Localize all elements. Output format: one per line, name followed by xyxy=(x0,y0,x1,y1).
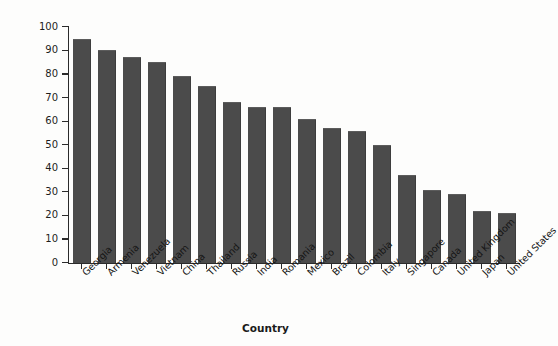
y-tick-label: 50 xyxy=(28,140,58,150)
y-tick-mark xyxy=(62,144,68,145)
y-tick-mark xyxy=(62,121,68,122)
y-tick-mark xyxy=(62,262,68,263)
y-tick-mark xyxy=(62,191,68,192)
bar xyxy=(198,86,217,263)
bar xyxy=(73,39,92,263)
y-tick-mark xyxy=(62,238,68,239)
y-tick-label: 20 xyxy=(28,210,58,220)
y-tick-mark xyxy=(62,168,68,169)
y-tick-mark xyxy=(62,73,68,74)
y-tick-mark xyxy=(62,50,68,51)
bar xyxy=(123,57,142,262)
y-tick-label: 10 xyxy=(28,234,58,244)
y-tick-label: 100 xyxy=(28,22,58,32)
y-tick-label: 40 xyxy=(28,163,58,173)
bar xyxy=(248,107,267,263)
y-tick-label: 70 xyxy=(28,93,58,103)
y-tick-mark xyxy=(62,215,68,216)
x-axis-title: Country xyxy=(0,322,531,334)
y-tick-label: 30 xyxy=(28,187,58,197)
bar xyxy=(323,128,342,262)
bar xyxy=(298,119,317,263)
bar xyxy=(223,102,242,262)
y-tick-mark xyxy=(62,97,68,98)
y-tick-label: 0 xyxy=(28,258,58,268)
y-tick-label: 80 xyxy=(28,69,58,79)
y-tick-label: 90 xyxy=(28,45,58,55)
y-tick-mark xyxy=(62,26,68,27)
bar xyxy=(348,131,367,263)
bar xyxy=(98,50,117,262)
y-tick-label: 60 xyxy=(28,116,58,126)
bar xyxy=(173,76,192,262)
bar xyxy=(398,175,417,262)
bar xyxy=(273,107,292,263)
y-axis-line xyxy=(68,26,69,264)
bar xyxy=(148,62,167,262)
